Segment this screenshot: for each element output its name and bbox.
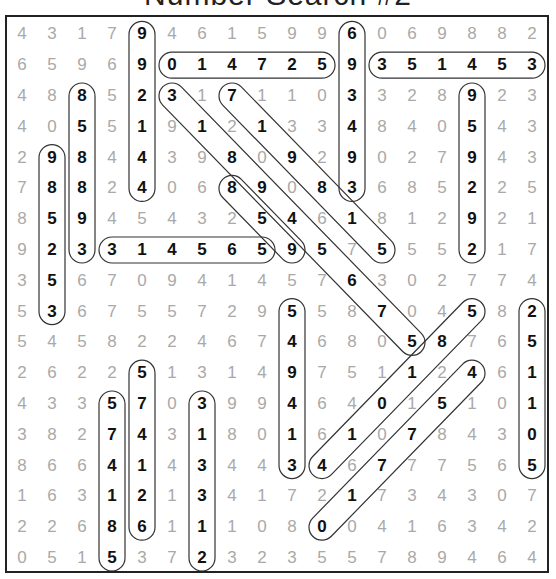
grid-cell[interactable]: 3 bbox=[517, 50, 547, 81]
grid-cell[interactable]: 7 bbox=[217, 81, 247, 112]
grid-cell[interactable]: 7 bbox=[277, 481, 307, 512]
grid-cell[interactable]: 5 bbox=[307, 296, 337, 327]
grid-cell[interactable]: 5 bbox=[427, 389, 457, 420]
grid-cell[interactable]: 5 bbox=[397, 50, 427, 81]
grid-cell[interactable]: 2 bbox=[427, 358, 457, 389]
grid-cell[interactable]: 8 bbox=[397, 173, 427, 204]
grid-cell[interactable]: 4 bbox=[277, 204, 307, 235]
grid-cell[interactable]: 2 bbox=[97, 358, 127, 389]
grid-cell[interactable]: 3 bbox=[37, 296, 67, 327]
grid-cell[interactable]: 0 bbox=[157, 389, 187, 420]
grid-cell[interactable]: 3 bbox=[157, 81, 187, 112]
grid-cell[interactable]: 1 bbox=[397, 204, 427, 235]
grid-cell[interactable]: 0 bbox=[367, 19, 397, 50]
grid-cell[interactable]: 1 bbox=[217, 358, 247, 389]
grid-cell[interactable]: 2 bbox=[277, 50, 307, 81]
grid-cell[interactable]: 8 bbox=[427, 81, 457, 112]
grid-cell[interactable]: 0 bbox=[37, 111, 67, 142]
grid-cell[interactable]: 4 bbox=[487, 111, 517, 142]
grid-cell[interactable]: 6 bbox=[397, 19, 427, 50]
grid-cell[interactable]: 6 bbox=[67, 450, 97, 481]
grid-cell[interactable]: 6 bbox=[307, 419, 337, 450]
grid-cell[interactable]: 5 bbox=[337, 358, 367, 389]
grid-cell[interactable]: 5 bbox=[187, 235, 217, 266]
grid-cell[interactable]: 2 bbox=[457, 173, 487, 204]
grid-cell[interactable]: 5 bbox=[97, 81, 127, 112]
grid-cell[interactable]: 3 bbox=[217, 543, 247, 574]
grid-cell[interactable]: 3 bbox=[187, 389, 217, 420]
grid-cell[interactable]: 9 bbox=[457, 204, 487, 235]
grid-cell[interactable]: 6 bbox=[37, 358, 67, 389]
grid-cell[interactable]: 3 bbox=[37, 19, 67, 50]
grid-cell[interactable]: 8 bbox=[97, 512, 127, 543]
grid-cell[interactable]: 0 bbox=[277, 173, 307, 204]
grid-cell[interactable]: 2 bbox=[7, 142, 37, 173]
grid-cell[interactable]: 8 bbox=[337, 327, 367, 358]
grid-cell[interactable]: 9 bbox=[277, 235, 307, 266]
grid-cell[interactable]: 7 bbox=[427, 142, 457, 173]
grid-cell[interactable]: 2 bbox=[517, 296, 547, 327]
grid-cell[interactable]: 5 bbox=[97, 111, 127, 142]
grid-cell[interactable]: 5 bbox=[457, 450, 487, 481]
grid-cell[interactable]: 3 bbox=[277, 111, 307, 142]
grid-cell[interactable]: 4 bbox=[457, 358, 487, 389]
grid-cell[interactable]: 3 bbox=[367, 265, 397, 296]
grid-cell[interactable]: 1 bbox=[67, 543, 97, 574]
grid-cell[interactable]: 4 bbox=[127, 419, 157, 450]
grid-cell[interactable]: 0 bbox=[367, 142, 397, 173]
grid-cell[interactable]: 3 bbox=[517, 111, 547, 142]
grid-cell[interactable]: 3 bbox=[67, 235, 97, 266]
grid-cell[interactable]: 7 bbox=[157, 543, 187, 574]
grid-cell[interactable]: 4 bbox=[247, 265, 277, 296]
grid-cell[interactable]: 9 bbox=[187, 142, 217, 173]
grid-cell[interactable]: 5 bbox=[127, 204, 157, 235]
grid-cell[interactable]: 6 bbox=[67, 265, 97, 296]
grid-cell[interactable]: 7 bbox=[247, 50, 277, 81]
grid-cell[interactable]: 2 bbox=[487, 173, 517, 204]
grid-cell[interactable]: 3 bbox=[187, 358, 217, 389]
grid-cell[interactable]: 6 bbox=[37, 450, 67, 481]
grid-cell[interactable]: 6 bbox=[127, 512, 157, 543]
grid-cell[interactable]: 6 bbox=[337, 265, 367, 296]
grid-cell[interactable]: 4 bbox=[367, 512, 397, 543]
grid-cell[interactable]: 6 bbox=[97, 50, 127, 81]
grid-cell[interactable]: 6 bbox=[367, 173, 397, 204]
grid-cell[interactable]: 1 bbox=[517, 204, 547, 235]
grid-cell[interactable]: 8 bbox=[487, 296, 517, 327]
grid-cell[interactable]: 0 bbox=[397, 296, 427, 327]
grid-cell[interactable]: 9 bbox=[127, 50, 157, 81]
grid-cell[interactable]: 1 bbox=[397, 358, 427, 389]
grid-cell[interactable]: 5 bbox=[247, 235, 277, 266]
grid-cell[interactable]: 2 bbox=[37, 512, 67, 543]
grid-cell[interactable]: 4 bbox=[217, 481, 247, 512]
grid-cell[interactable]: 7 bbox=[307, 358, 337, 389]
grid-cell[interactable]: 4 bbox=[157, 204, 187, 235]
grid-cell[interactable]: 1 bbox=[187, 111, 217, 142]
grid-cell[interactable]: 5 bbox=[307, 235, 337, 266]
grid-cell[interactable]: 2 bbox=[67, 358, 97, 389]
grid-cell[interactable]: 1 bbox=[517, 358, 547, 389]
grid-cell[interactable]: 3 bbox=[337, 173, 367, 204]
grid-cell[interactable]: 6 bbox=[187, 19, 217, 50]
grid-cell[interactable]: 4 bbox=[7, 111, 37, 142]
grid-cell[interactable]: 9 bbox=[457, 81, 487, 112]
grid-cell[interactable]: 0 bbox=[487, 481, 517, 512]
grid-cell[interactable]: 1 bbox=[157, 358, 187, 389]
grid-cell[interactable]: 8 bbox=[307, 173, 337, 204]
grid-cell[interactable]: 4 bbox=[217, 50, 247, 81]
grid-cell[interactable]: 8 bbox=[397, 543, 427, 574]
grid-cell[interactable]: 2 bbox=[427, 265, 457, 296]
grid-cell[interactable]: 6 bbox=[337, 450, 367, 481]
grid-cell[interactable]: 0 bbox=[517, 419, 547, 450]
grid-cell[interactable]: 0 bbox=[127, 265, 157, 296]
grid-cell[interactable]: 0 bbox=[307, 512, 337, 543]
grid-cell[interactable]: 7 bbox=[457, 327, 487, 358]
grid-cell[interactable]: 4 bbox=[337, 389, 367, 420]
grid-cell[interactable]: 4 bbox=[337, 111, 367, 142]
grid-cell[interactable]: 8 bbox=[367, 111, 397, 142]
grid-cell[interactable]: 6 bbox=[487, 327, 517, 358]
grid-cell[interactable]: 3 bbox=[487, 419, 517, 450]
grid-cell[interactable]: 5 bbox=[247, 19, 277, 50]
grid-cell[interactable]: 3 bbox=[67, 389, 97, 420]
grid-cell[interactable]: 5 bbox=[397, 327, 427, 358]
